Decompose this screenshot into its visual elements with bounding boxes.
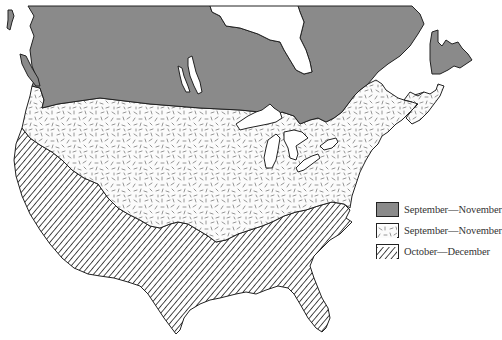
dashes-pattern-icon [377,226,397,238]
legend-label: September—November [404,204,502,215]
map-canvas [0,0,502,340]
legend-label: September—November [404,225,502,236]
hatch-pattern-icon [377,247,397,259]
legend: September—November September—November Oc… [376,201,502,264]
legend-item-middle: September—November [376,222,502,238]
legend-label: October—December [404,246,490,257]
legend-item-south: October—December [376,243,502,259]
haida-gwaii [7,10,14,30]
newfoundland [430,30,472,74]
dashes-swatch-icon [376,223,399,238]
legend-item-north: September—November [376,201,502,217]
hatch-swatch-icon [376,244,399,259]
solid-gray-swatch-icon [376,202,399,217]
